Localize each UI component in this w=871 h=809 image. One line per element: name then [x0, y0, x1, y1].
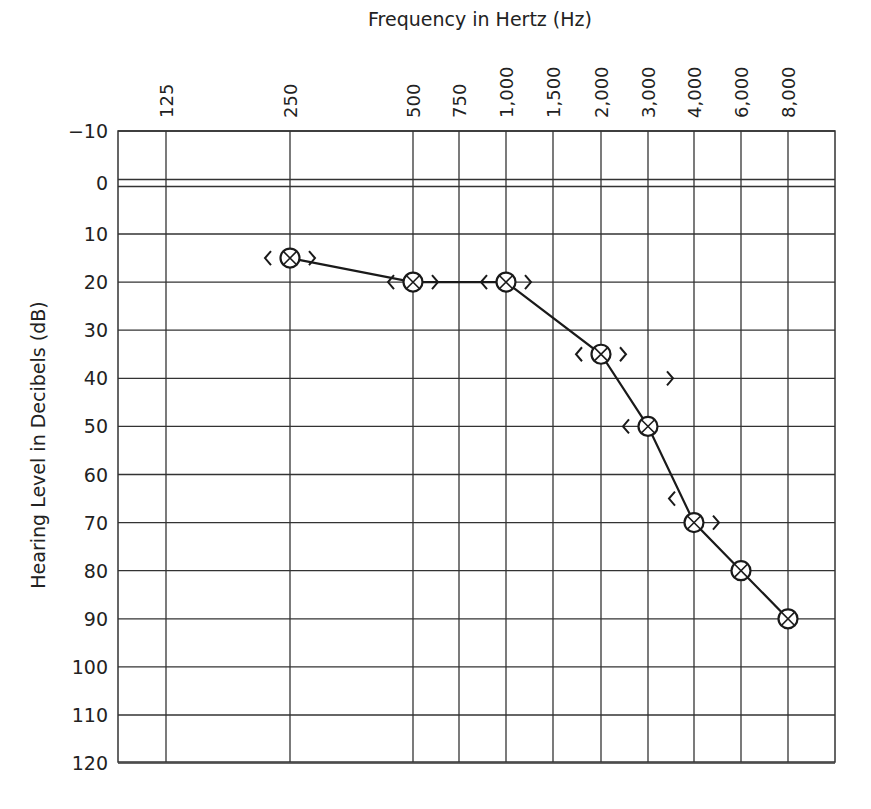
x-tick-label: 500	[403, 84, 424, 118]
y-tick-label: 50	[84, 415, 108, 437]
plot-area: −100102030405060708090100110120125250500…	[0, 0, 871, 809]
y-tick-label: 70	[84, 512, 108, 534]
y-tick-label: 0	[96, 172, 108, 194]
x-tick-label: 1,500	[543, 66, 564, 118]
x-tick-label: 125	[156, 84, 177, 118]
air-conduction-line	[290, 258, 788, 619]
x-tick-label: 3,000	[638, 66, 659, 118]
bone-left-bracket-icon	[265, 251, 271, 265]
x-tick-label: 250	[280, 84, 301, 118]
x-tick-label: 750	[449, 84, 470, 118]
x-tick-label: 4,000	[684, 66, 705, 118]
y-tick-label: 10	[84, 223, 108, 245]
y-tick-label: 20	[84, 271, 108, 293]
y-tick-label: 80	[84, 560, 108, 582]
x-tick-label: 6,000	[731, 66, 752, 118]
audiogram-chart: Frequency in Hertz (Hz) Hearing Level in…	[0, 0, 871, 809]
y-tick-label: 40	[84, 367, 108, 389]
x-tick-label: 8,000	[778, 66, 799, 118]
y-tick-label: 120	[72, 752, 108, 774]
y-tick-label: 110	[72, 704, 108, 726]
bone-left-bracket-icon	[669, 492, 675, 506]
y-tick-label: 60	[84, 464, 108, 486]
y-tick-label: 100	[72, 656, 108, 678]
bone-right-bracket-icon	[620, 347, 626, 361]
bone-left-bracket-icon	[576, 347, 582, 361]
y-tick-label: 90	[84, 608, 108, 630]
x-tick-label: 2,000	[591, 66, 612, 118]
x-tick-label: 1,000	[496, 66, 517, 118]
y-tick-label: 30	[84, 319, 108, 341]
y-tick-label: −10	[68, 120, 108, 142]
